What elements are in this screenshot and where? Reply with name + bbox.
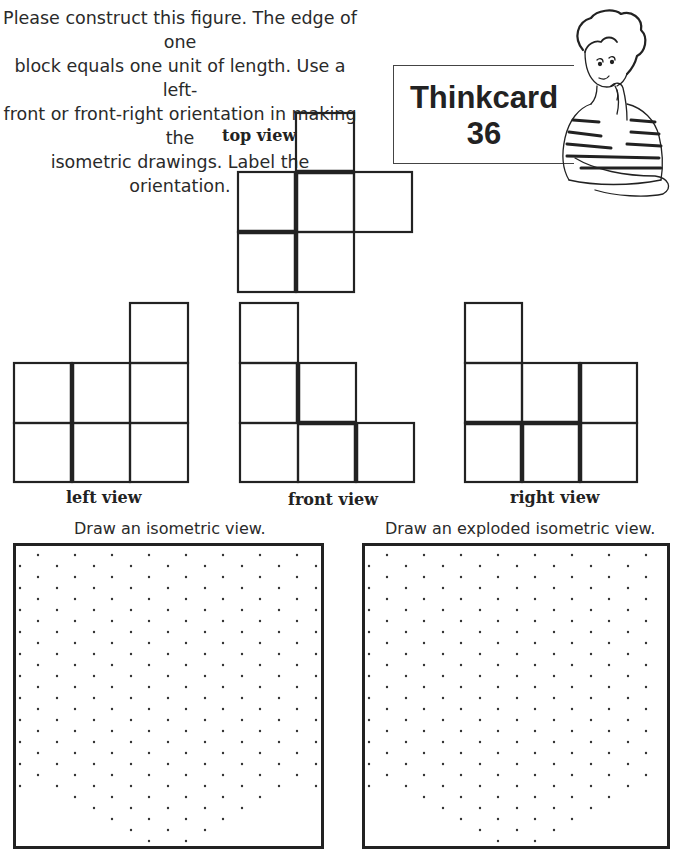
isometric-prompt: Draw an isometric view. bbox=[74, 519, 266, 538]
left-view-drawing bbox=[14, 303, 188, 482]
right-view-label: right view bbox=[510, 488, 600, 507]
exploded-isometric-dot-grid[interactable] bbox=[362, 543, 670, 849]
left-view-label: left view bbox=[66, 488, 141, 507]
exploded-prompt: Draw an exploded isometric view. bbox=[385, 519, 655, 538]
front-view-label: front view bbox=[288, 490, 378, 509]
dot-grid-pattern bbox=[16, 546, 321, 846]
right-view-drawing bbox=[465, 303, 637, 482]
isometric-dot-grid[interactable] bbox=[13, 543, 324, 849]
orthographic-views bbox=[0, 0, 688, 520]
dot-grid-pattern bbox=[365, 546, 667, 846]
top-view-label: top view bbox=[222, 126, 296, 145]
front-view-drawing bbox=[240, 303, 414, 482]
